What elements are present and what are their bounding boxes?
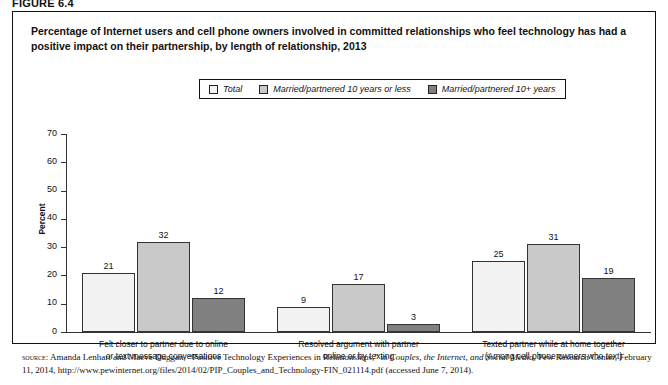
- chart-legend: Total Married/partnered 10 years or less…: [199, 79, 566, 99]
- legend-item-total: Total: [209, 84, 242, 94]
- bar[interactable]: 3: [387, 324, 440, 332]
- y-axis-tick-label: 70: [47, 128, 57, 138]
- y-axis-tick: 10: [61, 304, 66, 305]
- source-note: SOURCE: Amanda Lenhart and Maeve Duggan,…: [22, 351, 652, 377]
- legend-swatch-10-or-less: [259, 85, 268, 94]
- figure-label: FIGURE 6.4: [12, 0, 74, 9]
- bar-value-label: 31: [548, 232, 558, 242]
- y-axis-tick-label: 50: [47, 184, 57, 194]
- y-axis-title: Percent: [37, 203, 47, 234]
- x-axis-group-label-line: Resolved argument with partner: [261, 338, 456, 350]
- y-axis-tick: 40: [61, 219, 66, 220]
- y-axis-tick-label: 60: [47, 156, 57, 166]
- bar[interactable]: 19: [582, 278, 635, 332]
- y-axis-tick-label: 20: [47, 269, 57, 279]
- figure-box: Percentage of Internet users and cell ph…: [12, 11, 656, 344]
- x-axis-group-label-line: Texted partner while at home together: [456, 338, 651, 350]
- x-axis-group-label-line: Felt closer to partner due to online: [66, 338, 261, 350]
- bar-value-label: 3: [411, 312, 416, 322]
- plot-area: Percent 010203040506070 2132129173253119…: [66, 134, 651, 332]
- y-axis-tick: 60: [61, 162, 66, 163]
- bar[interactable]: 32: [137, 242, 190, 333]
- legend-swatch-total: [209, 85, 218, 94]
- y-axis-line: [66, 134, 67, 332]
- bar-value-label: 21: [103, 261, 113, 271]
- bar[interactable]: 21: [82, 273, 135, 332]
- y-axis-tick: 30: [61, 247, 66, 248]
- y-axis-tick-label: 10: [47, 297, 57, 307]
- y-axis-tick: 70: [61, 134, 66, 135]
- y-axis-tick: 0: [61, 332, 66, 333]
- y-axis-tick-label: 40: [47, 212, 57, 222]
- legend-item-10-plus: Married/partnered 10+ years: [428, 84, 556, 94]
- bar[interactable]: 25: [472, 261, 525, 332]
- bar[interactable]: 9: [277, 307, 330, 332]
- bar[interactable]: 12: [192, 298, 245, 332]
- source-publication: Couples, the Internet, and Social Media: [390, 352, 534, 362]
- source-label: SOURCE:: [22, 352, 48, 362]
- legend-label-total: Total: [223, 84, 242, 94]
- legend-item-10-or-less: Married/partnered 10 years or less: [259, 84, 411, 94]
- y-axis-tick: 20: [61, 275, 66, 276]
- legend-swatch-10-plus: [428, 85, 437, 94]
- x-axis-line: [65, 332, 651, 333]
- y-axis-tick-label: 30: [47, 241, 57, 251]
- bar-value-label: 17: [353, 272, 363, 282]
- source-text-1: Amanda Lenhart and Maeve Duggan, “Positi…: [48, 352, 390, 362]
- y-axis-tick-label: 0: [52, 326, 57, 336]
- legend-label-10-or-less: Married/partnered 10 years or less: [273, 84, 411, 94]
- bar[interactable]: 31: [527, 244, 580, 332]
- bar-value-label: 32: [158, 230, 168, 240]
- chart-title: Percentage of Internet users and cell ph…: [31, 24, 637, 54]
- bar-value-label: 19: [603, 266, 613, 276]
- bar-value-label: 25: [493, 249, 503, 259]
- y-axis-tick: 50: [61, 191, 66, 192]
- bar-value-label: 12: [213, 286, 223, 296]
- legend-label-10-plus: Married/partnered 10+ years: [442, 84, 556, 94]
- bar-value-label: 9: [301, 295, 306, 305]
- bar[interactable]: 17: [332, 284, 385, 332]
